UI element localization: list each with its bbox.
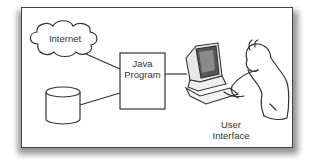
diagram-canvas: Internet Java Program User Interface xyxy=(0,0,310,163)
diagram-graphics xyxy=(0,0,310,163)
user-interface-label-line1: User xyxy=(206,119,256,130)
java-program-label-line1: Java xyxy=(120,58,165,69)
database-cylinder-icon xyxy=(46,87,80,124)
java-program-label-line2: Program xyxy=(120,69,165,80)
edge-database-to-java xyxy=(80,93,120,105)
internet-label: Internet xyxy=(40,33,90,44)
edge-internet-to-java xyxy=(86,54,120,69)
user-person-icon xyxy=(224,40,289,119)
user-interface-label-line2: Interface xyxy=(206,130,256,141)
